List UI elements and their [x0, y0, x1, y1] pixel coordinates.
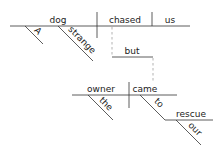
modifier-word-strange: strange — [66, 24, 98, 56]
clause2: owner came the to rescue our — [72, 82, 213, 145]
clause2-verb-word: came — [133, 84, 158, 94]
conjunction-word: but — [125, 46, 140, 56]
verb-word: chased — [109, 15, 141, 25]
modifier-word-our: our — [186, 120, 204, 138]
clause2-subject-word: owner — [87, 84, 115, 94]
modifier-word-the: the — [97, 95, 115, 113]
sentence-diagram: dog chased us A strange but owner came t… — [0, 0, 215, 147]
subject-word: dog — [50, 15, 67, 25]
preposition-word: to — [152, 96, 166, 110]
object-word: us — [165, 15, 176, 25]
prep-object-word: rescue — [176, 109, 206, 119]
clause1: dog chased us A strange — [10, 12, 190, 61]
conjunction: but — [112, 27, 153, 82]
